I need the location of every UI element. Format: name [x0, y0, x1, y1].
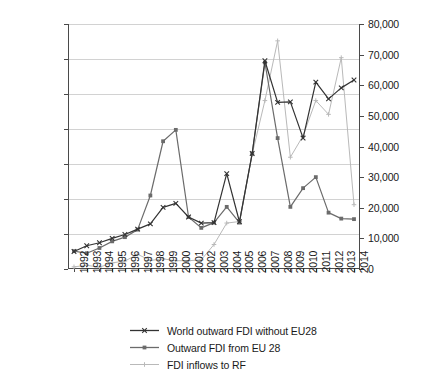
x-axis-tick-label: 1996	[129, 251, 141, 273]
legend-item-label: FDI inflows to RF	[167, 359, 246, 371]
x-axis-tick-label: 1997	[142, 251, 154, 273]
x-axis-tick-label: 2004	[231, 251, 243, 273]
legend-marker-square-icon	[129, 342, 160, 353]
x-axis-tick-label: 2013	[345, 251, 357, 273]
left-axis-tick	[64, 269, 68, 270]
legend-item[interactable]: Outward FDI from EU 28	[129, 339, 317, 356]
right-axis-tick-label: 30,000	[368, 171, 399, 183]
x-axis-tick-label: 1992	[78, 251, 90, 273]
right-axis-tick-label: 10,000	[368, 232, 399, 244]
legend-item-label: Outward FDI from EU 28	[167, 342, 280, 354]
right-axis-tick-label: 20,000	[368, 202, 399, 214]
x-axis-tick-label: 1998	[154, 251, 166, 273]
x-axis-tick-label: 2007	[269, 251, 281, 273]
x-axis-tick-label: 1994	[103, 251, 115, 273]
x-axis-tick-label: 1995	[116, 251, 128, 273]
x-axis-tick-label: 2012	[333, 251, 345, 273]
right-axis-tick-label: 80,000	[368, 18, 399, 30]
x-axis-tick-label: 2011	[320, 251, 332, 272]
x-axis-tick-label: 2009	[294, 251, 306, 273]
x-axis-tick-label: 2003	[218, 251, 230, 273]
x-axis-tick-label: 2000	[180, 251, 192, 273]
right-axis-tick-label: 70,000	[368, 49, 399, 61]
x-axis-tick-label: 2005	[243, 251, 255, 273]
x-axis-tick-label: 2014	[358, 251, 370, 273]
legend-marker-plus-icon	[129, 359, 160, 370]
right-axis-tick-label: 50,000	[368, 110, 399, 122]
x-axis-tick-label: 2008	[282, 251, 294, 273]
legend-marker-x-icon	[129, 325, 160, 336]
x-axis-tick-label: 2006	[256, 251, 268, 273]
legend-item-label: World outward FDI without EU28	[167, 325, 317, 337]
legend-item[interactable]: World outward FDI without EU28	[129, 322, 317, 339]
x-axis-tick-label: 2002	[205, 251, 217, 273]
x-axis-tick-label: 2001	[193, 251, 205, 273]
right-axis-tick-labels: 010,00020,00030,00040,00050,00060,00070,…	[68, 24, 360, 269]
x-axis-tick-label: 1999	[167, 251, 179, 273]
chart-legend: World outward FDI without EU28Outward FD…	[129, 322, 317, 373]
right-axis-tick-label: 40,000	[368, 141, 399, 153]
x-axis-tick-label: 1993	[91, 251, 103, 273]
x-axis-tick-label: 2010	[307, 251, 319, 273]
right-axis-tick-label: 60,000	[368, 79, 399, 91]
legend-item[interactable]: FDI inflows to RF	[129, 356, 317, 373]
fdi-line-chart: 0200,000400,000600,000800,0001,000,0001,…	[0, 0, 423, 379]
